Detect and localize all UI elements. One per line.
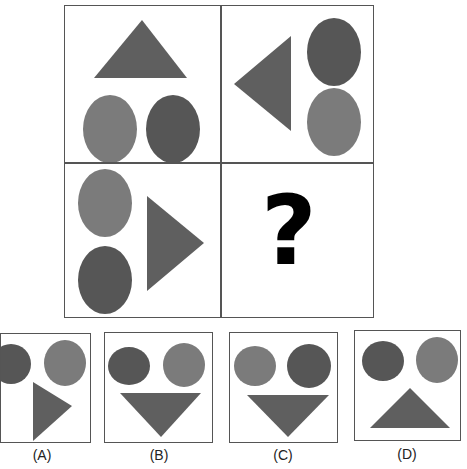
- option-d[interactable]: [354, 330, 461, 441]
- circle-light: [234, 346, 276, 386]
- cell-shapes: [221, 6, 375, 162]
- triangle-up-icon: [94, 20, 187, 78]
- circle-dark: [108, 347, 150, 385]
- option-c[interactable]: [229, 332, 338, 443]
- circle-dark: [307, 18, 361, 86]
- question-mark-icon: ?: [261, 183, 317, 279]
- option-c-label: (C): [253, 447, 313, 463]
- circle-dark: [287, 344, 331, 388]
- triangle-down-icon: [247, 395, 329, 437]
- grid-cell-bottom-left: [65, 163, 220, 319]
- option-b[interactable]: [104, 332, 213, 443]
- triangle-right-icon: [147, 196, 204, 291]
- option-b-label: (B): [129, 447, 189, 463]
- option-shapes: [355, 331, 461, 441]
- circle-light: [83, 95, 137, 162]
- circle-dark: [146, 95, 200, 162]
- option-d-label: (D): [377, 446, 437, 462]
- puzzle-grid: ?: [64, 5, 374, 318]
- circle-light: [307, 88, 361, 156]
- option-shapes: [1, 334, 91, 443]
- option-shapes: [105, 333, 213, 443]
- circle-dark: [362, 341, 404, 381]
- grid-cell-top-right: [221, 6, 375, 162]
- triangle-up-icon: [370, 388, 450, 428]
- grid-cell-missing: ?: [221, 163, 375, 319]
- circle-light: [78, 169, 132, 237]
- cell-shapes: [65, 163, 220, 319]
- circle-light: [416, 337, 458, 383]
- circle-dark: [78, 246, 132, 314]
- circle-light: [163, 343, 205, 387]
- triangle-left-icon: [234, 36, 291, 131]
- triangle-right-icon: [33, 382, 72, 441]
- option-shapes: [230, 333, 338, 443]
- cell-shapes: [65, 6, 220, 162]
- circle-light: [44, 340, 86, 386]
- grid-cell-top-left: [65, 6, 220, 162]
- triangle-down-icon: [120, 393, 201, 437]
- circle-dark: [1, 344, 31, 384]
- option-a[interactable]: [0, 333, 91, 443]
- option-a-label: (A): [12, 447, 72, 463]
